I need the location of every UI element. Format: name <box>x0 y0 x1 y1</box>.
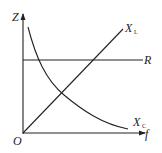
xc-label-sub: C <box>142 123 146 129</box>
r-label: R <box>143 53 152 67</box>
origin-label: O <box>13 134 22 148</box>
impedance-frequency-diagram: Z f O R X L X C <box>0 0 162 153</box>
x-axis-label: f <box>145 127 150 141</box>
xc-label: X <box>132 115 141 129</box>
xl-line <box>23 29 123 133</box>
y-axis-label: Z <box>12 10 19 24</box>
xc-curve <box>28 27 128 129</box>
xl-label-sub: L <box>134 29 138 35</box>
xl-label: X <box>124 21 133 35</box>
